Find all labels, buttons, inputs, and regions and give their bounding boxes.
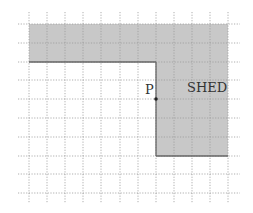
diagram-canvas: P SHED	[0, 0, 253, 213]
shed-label: SHED	[187, 80, 227, 95]
point-p-label: P	[145, 82, 154, 97]
point-p-marker	[154, 97, 158, 101]
